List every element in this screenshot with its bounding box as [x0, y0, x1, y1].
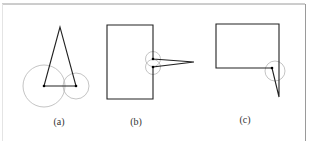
circle-corner-vertex [265, 61, 285, 81]
panel-c-diagram [216, 24, 285, 97]
triangle [44, 27, 76, 86]
caption-c: (c) [239, 114, 250, 125]
figure-canvas [0, 0, 311, 141]
rectangle-with-spike [216, 24, 279, 97]
vertex-dot [152, 58, 155, 61]
rectangle-with-spike [107, 25, 194, 99]
vertex-dot [43, 85, 46, 88]
caption-b: (b) [130, 116, 142, 127]
panel-a-diagram [23, 27, 89, 107]
vertex-dot [271, 67, 274, 70]
caption-a: (a) [53, 116, 64, 127]
panel-b-diagram [107, 25, 194, 99]
vertex-dot [152, 66, 155, 69]
vertex-dot [75, 85, 78, 88]
